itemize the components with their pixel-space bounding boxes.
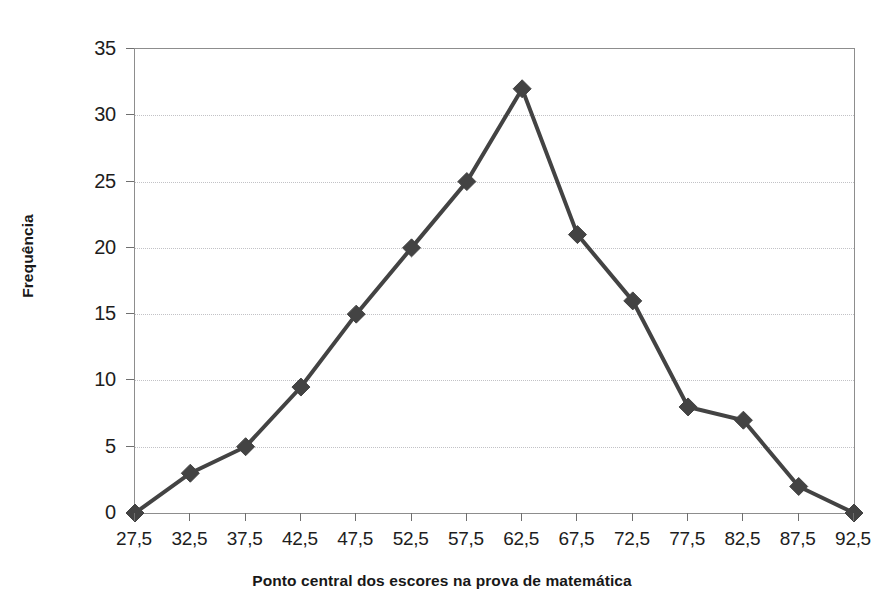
x-axis-tick-label: 32,5	[171, 528, 207, 550]
x-axis-tick	[798, 513, 799, 521]
x-axis-tick	[687, 513, 688, 521]
x-axis-tick	[134, 513, 135, 521]
series-frequencia	[127, 41, 862, 521]
x-axis-tick	[411, 513, 412, 521]
y-axis-tick-label: 5	[105, 434, 116, 457]
x-axis-tick-label: 57,5	[448, 528, 484, 550]
x-axis-title: Ponto central dos escores na prova de ma…	[0, 572, 884, 590]
x-axis-tick	[576, 513, 577, 521]
y-axis-title-label: Frequência	[19, 214, 37, 298]
y-axis-tick-label: 0	[105, 501, 116, 524]
x-axis-tick-label: 92,5	[835, 528, 871, 550]
x-axis-tick-label: 37,5	[227, 528, 263, 550]
y-axis-tick-label: 25	[94, 169, 116, 192]
x-axis-tick	[189, 513, 190, 521]
x-axis-tick	[466, 513, 467, 521]
frequency-polygon-chart: Frequência 05101520253035 27,532,537,542…	[0, 0, 884, 608]
data-point-marker	[679, 398, 697, 416]
x-axis-tick-label: 47,5	[337, 528, 373, 550]
x-axis-tick	[521, 513, 522, 521]
y-axis-tick-label: 20	[94, 235, 116, 258]
x-axis-tick-label: 62,5	[503, 528, 539, 550]
x-axis-tick-label: 27,5	[116, 528, 152, 550]
y-axis-tick-label: 15	[94, 302, 116, 325]
y-axis-tick-label: 10	[94, 368, 116, 391]
x-axis-tick	[300, 513, 301, 521]
plot-area	[134, 48, 855, 514]
x-axis-tick	[355, 513, 356, 521]
y-axis-tick-label: 30	[94, 103, 116, 126]
x-axis-tick-label: 67,5	[559, 528, 595, 550]
x-axis-tick-label: 87,5	[780, 528, 816, 550]
x-axis-tick-label: 42,5	[282, 528, 318, 550]
y-axis-tick-label: 35	[94, 37, 116, 60]
x-axis-tick-label: 52,5	[393, 528, 429, 550]
x-axis-ticks	[134, 513, 854, 521]
x-axis-tick	[245, 513, 246, 521]
clipped-header-text	[0, 0, 884, 9]
x-axis-tick	[853, 513, 854, 521]
x-axis-tick-labels: 27,532,537,542,547,552,557,562,567,572,5…	[134, 528, 854, 558]
data-point-marker	[513, 80, 531, 98]
x-axis-tick	[742, 513, 743, 521]
x-axis-tick	[632, 513, 633, 521]
x-axis-tick-label: 82,5	[724, 528, 760, 550]
x-axis-tick-label: 72,5	[614, 528, 650, 550]
x-axis-tick-label: 77,5	[669, 528, 705, 550]
y-axis-title: Frequência	[0, 0, 56, 512]
y-axis-tick-labels: 05101520253035	[58, 48, 126, 512]
